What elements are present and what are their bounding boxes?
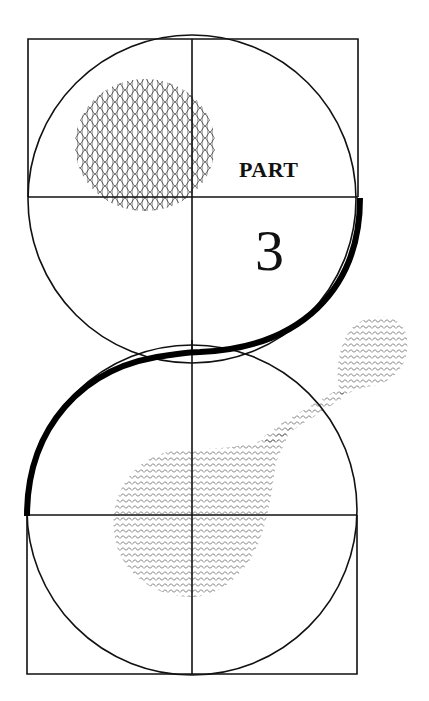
part-number: 3	[255, 222, 284, 280]
part-divider-artwork	[0, 0, 429, 701]
part-label: PART	[239, 157, 298, 183]
top-mesh-blob	[70, 75, 220, 220]
bottom-frame	[27, 340, 357, 675]
